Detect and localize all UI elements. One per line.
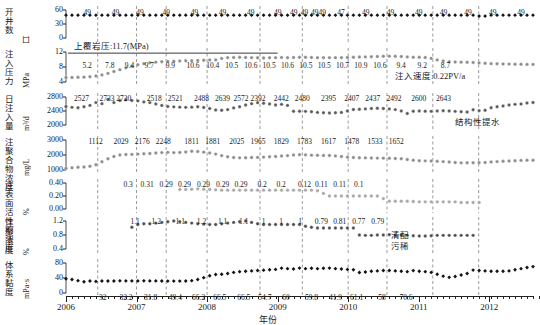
y-axis-title-polymer_dose: 注聚浓度 xyxy=(3,219,12,255)
data-label-daily_injection: 2480 xyxy=(295,95,310,103)
data-label-open_wells: 49 xyxy=(191,9,199,17)
data-label-polymer_concentration: 1811 xyxy=(184,138,199,146)
data-label-open_wells: 47 xyxy=(337,9,345,17)
data-label-injection_pressure: 7.8 xyxy=(105,62,114,70)
plot-area-system_viscosity xyxy=(66,263,533,293)
x-tick-minor xyxy=(401,296,402,299)
y-tick-label: 60 xyxy=(55,6,63,14)
x-tick-minor xyxy=(317,296,318,299)
data-label-injection_pressure: 10.4 xyxy=(206,62,219,70)
series-polymer_concentration xyxy=(64,150,534,170)
panel-surfactant_concentration: 0.000.200.40注表面活性剂浓度% xyxy=(0,183,535,209)
x-tick-minor xyxy=(311,296,312,299)
y-axis-title-injection_pressure: 注入压力 xyxy=(3,50,12,88)
data-label-polymer_dose: 1.1 xyxy=(130,218,139,226)
x-tick-minor xyxy=(437,296,438,299)
x-axis-title: 年份 xyxy=(0,313,535,325)
data-label-polymer_concentration: 1112 xyxy=(88,138,102,146)
data-label-surfactant_concentration: 0.12 xyxy=(298,181,311,189)
x-tick-minor xyxy=(377,296,378,299)
data-label-polymer_concentration: 2176 xyxy=(135,138,150,146)
x-tick-minor xyxy=(192,296,193,299)
data-label-surfactant_concentration: 0.29 xyxy=(234,181,247,189)
y-tick-label: 40 xyxy=(55,274,63,282)
data-label-open_wells: 49 xyxy=(83,9,91,17)
data-label-daily_injection: 2392 xyxy=(250,95,265,103)
y-axis-unit-system_viscosity: mPa·s xyxy=(22,261,31,299)
y-axis-title-polymer_concentration: 注聚合物浓度 xyxy=(3,138,12,176)
data-label-polymer_concentration: 1617 xyxy=(321,138,336,146)
data-label-polymer_dose: 1.2 xyxy=(152,218,161,226)
x-tick-minor xyxy=(335,296,336,299)
x-tick-minor xyxy=(168,296,169,299)
y-axis-title-system_viscosity: 体系黏度 xyxy=(3,261,12,299)
annotation-injection-rate: 注入速度:0.22PV/a xyxy=(395,72,465,81)
data-label-surfactant_concentration: 0.29 xyxy=(178,181,191,189)
data-label-surfactant_concentration: 0.2 xyxy=(276,181,285,189)
x-tick-minor xyxy=(497,296,498,299)
x-tick-minor xyxy=(449,296,450,299)
data-label-injection_pressure: 9.2 xyxy=(418,62,427,70)
data-label-injection_pressure: 10.6 xyxy=(186,62,199,70)
data-label-polymer_concentration: 1965 xyxy=(250,138,265,146)
y-axis-unit-surfactant_concentration: % xyxy=(22,181,31,215)
data-label-daily_injection: 2437 xyxy=(365,95,380,103)
data-label-open_wells: 49 xyxy=(517,9,525,17)
x-tick-minor xyxy=(186,296,187,299)
x-tick-minor xyxy=(120,296,121,299)
data-label-open_wells: 49 xyxy=(464,9,472,17)
y-axis-unit-polymer_concentration: mg/L xyxy=(22,138,31,176)
y-tick-label: 0.8 xyxy=(53,231,63,239)
x-tick-minor xyxy=(114,296,115,299)
y-tick-label: 80 xyxy=(55,259,63,267)
data-label-injection_pressure: 9.4 xyxy=(125,62,134,70)
data-label-open_wells: 49 xyxy=(290,9,298,17)
y-tick-label: 1000 xyxy=(47,166,63,174)
data-label-open_wells: 49 xyxy=(247,9,255,17)
x-tick-minor xyxy=(353,296,354,299)
data-label-daily_injection: 2527 xyxy=(74,95,89,103)
x-tick-minor xyxy=(84,296,85,299)
x-tick-minor xyxy=(359,296,360,299)
x-tick-minor xyxy=(252,296,253,299)
data-label-polymer_dose: 0.81 xyxy=(333,218,346,226)
data-label-polymer_concentration: 1652 xyxy=(389,138,404,146)
data-label-polymer_concentration: 1829 xyxy=(274,138,289,146)
x-tick-minor xyxy=(383,296,384,299)
y-tick-label: 30 xyxy=(55,20,63,28)
x-tick-minor xyxy=(246,296,247,299)
data-label-polymer_concentration: 2025 xyxy=(229,138,244,146)
data-label-injection_pressure: 10.5 xyxy=(299,62,312,70)
y-tick-label: 1.2 xyxy=(53,217,63,225)
x-tick-minor xyxy=(509,296,510,299)
x-tick-minor xyxy=(78,296,79,299)
y-axis-unit-open_wells: 口 xyxy=(22,8,31,44)
data-label-polymer_dose: 0.77 xyxy=(352,218,365,226)
x-tick-minor xyxy=(491,296,492,299)
x-tick-minor xyxy=(198,296,199,299)
data-label-open_wells: 49 xyxy=(387,9,395,17)
x-tick-minor xyxy=(282,296,283,299)
x-tick-minor xyxy=(300,296,301,299)
x-tick-minor xyxy=(521,296,522,299)
y-tick-label: 0.40 xyxy=(49,179,63,187)
x-tick-minor xyxy=(473,296,474,299)
data-label-polymer_dose: 1 xyxy=(279,218,283,226)
x-tick-minor xyxy=(323,296,324,299)
x-tick-minor xyxy=(144,296,145,299)
annotation-clean-prep: 清配 xyxy=(391,231,409,240)
data-label-polymer_dose: 1 xyxy=(298,218,302,226)
x-tick-minor xyxy=(234,296,235,299)
x-tick-minor xyxy=(210,296,211,299)
x-tick-minor xyxy=(96,296,97,299)
y-axis-title-open_wells: 开井数 xyxy=(3,8,12,44)
x-tick-label: 2007 xyxy=(128,302,146,312)
x-tick-label: 2011 xyxy=(410,302,428,312)
x-tick-minor xyxy=(270,296,271,299)
x-tick-minor xyxy=(222,296,223,299)
x-tick-minor xyxy=(443,296,444,299)
data-label-open_wells: 49 xyxy=(489,9,497,17)
x-tick-minor xyxy=(533,296,534,299)
data-label-injection_pressure: 9.4 xyxy=(396,62,405,70)
